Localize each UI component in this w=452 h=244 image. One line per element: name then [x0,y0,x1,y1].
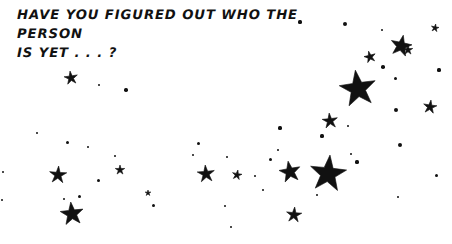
dot-center-b [347,125,350,128]
star-medium-lower-right [403,45,413,55]
star-medium-bottom-left [59,201,85,227]
star-small-mid-left [231,169,243,181]
dot-bottom-left-c [114,155,117,158]
star-large-upper-right [337,68,380,111]
dot-top-right-c [298,20,301,23]
dot-left-f [36,132,39,135]
comic-panel: HAVE YOU FIGURED OUT WHO THE PERSON IS Y… [0,0,452,244]
star-medium-mid-right [321,112,339,130]
dot-left-h [1,199,4,202]
caption-text: HAVE YOU FIGURED OUT WHO THE PERSON IS Y… [17,6,357,63]
star-medium-lower-center [285,206,302,223]
dot-center-c [355,160,358,163]
star-small-bottom-left [115,165,125,175]
dot-upper-right-b [394,77,397,80]
star-small-top-right-edge [430,23,439,32]
star-medium-left [48,165,67,184]
dot-left-a [78,195,81,198]
star-small-left-lower [145,190,151,196]
dot-right-a [394,108,398,112]
dot-upper-right-a [381,65,385,69]
dot-center-h [269,158,272,161]
dot-left-b [87,146,90,149]
dot-mid-left-d [254,175,257,178]
dot-right-b [398,143,402,147]
dot-mid-left-a [197,142,200,145]
dot-mid-left-b [192,154,195,157]
star-medium-mid-left [196,164,216,184]
star-small-right-edge [422,99,438,115]
dot-mid-left-e [152,204,155,207]
dot-right-d [435,174,438,177]
star-large-center-right [307,153,349,195]
dot-left-c [124,88,127,91]
dot-left-d [98,84,100,86]
dot-center-g [316,194,319,197]
dot-center-f [277,149,280,152]
star-medium-top-right [388,33,414,59]
dot-center-i [262,189,265,192]
dot-top-right-a [343,22,347,26]
dot-top-right-b [381,29,384,32]
dot-center-d [350,153,353,156]
star-small-upper-left [63,70,79,86]
dot-center-a [320,134,323,137]
dot-center-e [278,126,281,129]
dot-mid-left-g [230,226,233,229]
dot-left-e [66,141,69,144]
star-medium-top-far-right [363,50,378,65]
dot-bottom-left-b [63,198,66,201]
dot-left-g [2,171,5,174]
star-medium-center [277,159,302,184]
dot-mid-left-c [226,156,229,159]
dot-mid-left-f [224,205,227,208]
dot-right-c [397,196,400,199]
dot-upper-right-c [437,68,440,71]
dot-bottom-left-a [97,179,100,182]
